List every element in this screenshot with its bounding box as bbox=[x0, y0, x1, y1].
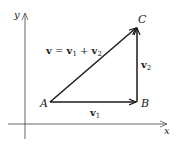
vector-v1-label: v1 bbox=[89, 107, 100, 120]
point-label-c: C bbox=[138, 13, 147, 26]
v2-sub: 2 bbox=[147, 64, 151, 72]
vector-v-arrow bbox=[50, 28, 136, 102]
vector-v2-label: v2 bbox=[140, 59, 151, 72]
point-label-b: B bbox=[140, 97, 149, 110]
equation-label: v = v1 + v2 bbox=[45, 45, 102, 58]
eq-sign: = bbox=[52, 45, 67, 56]
v1-sub: 1 bbox=[96, 112, 100, 120]
vector-diagram: x y A B C v1 v2 v = v1 + v2 bbox=[0, 0, 183, 147]
y-axis-label: y bbox=[13, 9, 20, 20]
x-axis-label: x bbox=[164, 125, 170, 136]
eq-t2-sub: 2 bbox=[97, 50, 101, 58]
point-label-a: A bbox=[39, 97, 48, 110]
eq-plus: + bbox=[77, 45, 92, 56]
